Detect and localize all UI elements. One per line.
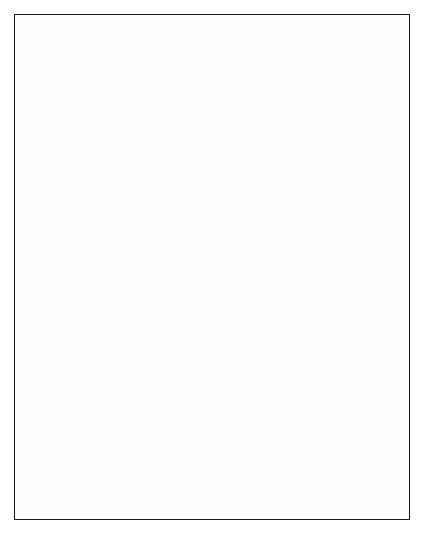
chart-legend [28,389,388,450]
chart-plot-area [15,34,409,322]
legend-items [28,394,388,450]
figure-panel [14,14,410,520]
title-block [15,15,409,28]
